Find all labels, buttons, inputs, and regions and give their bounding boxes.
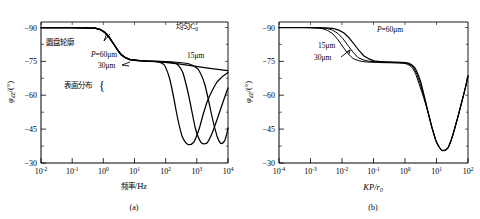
curve-uniform-c0 [41, 28, 228, 71]
anno-uniform-c0: 均匀C0 [176, 21, 198, 32]
anno-surface-dist: 表面分布 [64, 80, 93, 90]
panel-b: −90 −75 −60 −45 −30 10-4 10-3 10-2 10-1 … [240, 0, 480, 219]
xtick-label: 10-3 [304, 166, 317, 177]
panel-b-svg: −90 −75 −60 −45 −30 10-4 10-3 10-2 10-1 … [240, 0, 480, 219]
panel-a-svg: −90 −75 −60 −45 −30 10-2 10-1 100 101 10… [0, 0, 240, 219]
anno-b-p30: 30μm [314, 53, 332, 62]
ytick-label: −60 [262, 91, 275, 100]
panel-b-y-axis-title: φdZ/(°) [243, 81, 254, 103]
panel-a-y-axis-title: φdZ/(°) [5, 81, 16, 103]
panel-b-curves [279, 28, 468, 151]
ytick-label: −60 [24, 91, 37, 100]
xtick-label: 100 [400, 166, 411, 177]
ytick-label: −90 [24, 24, 37, 33]
xtick-label: 10-2 [35, 166, 48, 177]
xtick-label: 102 [160, 166, 171, 177]
ytick-label: −45 [262, 125, 275, 134]
xtick-label: 10-1 [367, 166, 380, 177]
xtick-label: 104 [223, 166, 234, 177]
ytick-label: −75 [24, 57, 37, 66]
panel-b-x-ticks [279, 22, 468, 163]
xtick-label: 101 [129, 166, 140, 177]
panel-a-caption: (a) [130, 203, 139, 212]
anno-p60: P=60μm [90, 50, 117, 59]
anno-b-p15: 15μm [318, 41, 336, 50]
panel-b-x-ticklabels: 10-4 10-3 10-2 10-1 100 101 102 [273, 166, 474, 177]
panel-a-x-ticklabels: 10-2 10-1 100 101 102 103 104 [35, 166, 234, 177]
curve-b-p30 [279, 28, 468, 151]
anno-p15: 15μm [187, 51, 205, 60]
ytick-label: −45 [24, 125, 37, 134]
figure-container: −90 −75 −60 −45 −30 10-2 10-1 100 101 10… [0, 0, 480, 219]
xtick-label: 10-4 [273, 166, 286, 177]
ytick-label: −75 [262, 57, 275, 66]
xtick-label: 10-2 [336, 166, 349, 177]
panel-a-y-ticklabels: −90 −75 −60 −45 −30 [24, 24, 37, 169]
curve-b-p15 [279, 28, 468, 151]
panel-b-x-axis-title: KP/r0 [362, 182, 383, 193]
xtick-label: 101 [431, 166, 442, 177]
anno-b-p60: P=60μm [376, 25, 403, 34]
panel-b-y-ticklabels: −90 −75 −60 −45 −30 [262, 24, 275, 169]
panel-b-caption: (b) [368, 203, 378, 212]
xtick-label: 10-1 [66, 166, 79, 177]
panel-a-x-axis-title: 频率/Hz [121, 181, 148, 191]
anno-brace: { [99, 79, 105, 93]
xtick-label: 103 [191, 166, 202, 177]
anno-disk-profile: 圆盘轮廓 [46, 37, 75, 47]
panel-a-y-ticks [41, 28, 228, 164]
panel-b-axes [279, 22, 468, 163]
anno-p30: 30μm [98, 61, 116, 70]
panel-a: −90 −75 −60 −45 −30 10-2 10-1 100 101 10… [0, 0, 240, 219]
panel-b-y-ticks [279, 28, 468, 164]
xtick-label: 102 [463, 166, 474, 177]
ytick-label: −90 [262, 24, 275, 33]
xtick-label: 100 [98, 166, 109, 177]
curve-b-p60 [279, 28, 468, 151]
